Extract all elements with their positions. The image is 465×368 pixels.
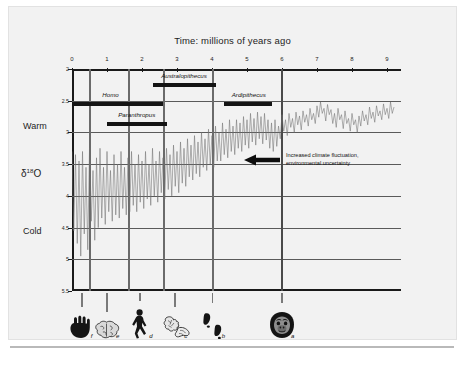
taxon-label-ardipithecus: Ardipithecus xyxy=(232,91,266,98)
x-tick-label-6: 6 xyxy=(280,56,283,62)
plot-area: 22.533.544.555.5 0123456789 HomoParanthr… xyxy=(72,69,401,291)
warm-label: Warm xyxy=(23,121,47,131)
icon-stem-a xyxy=(281,293,283,303)
taxon-bar-ardipithecus xyxy=(224,102,272,106)
figure-panel: Time: millions of years ago 22.533.544.5… xyxy=(8,6,457,340)
y-tick-label-5.5: 5.5 xyxy=(56,288,69,294)
x-tick-label-3: 3 xyxy=(175,56,178,62)
x-tick-label-9: 9 xyxy=(385,56,388,62)
chart-title: Time: millions of years ago xyxy=(9,35,456,46)
taxon-bar-homo xyxy=(72,102,163,106)
taxon-label-australopithecus: Australopithecus xyxy=(161,72,207,79)
y-tick-label-2: 2 xyxy=(56,66,69,72)
y-tick-label-4: 4 xyxy=(56,193,69,199)
climate-annotation: Increased climate fluctuation, environme… xyxy=(286,151,358,167)
y-tick-label-3.5: 3.5 xyxy=(56,161,69,167)
y-tick-label-5: 5 xyxy=(56,256,69,262)
icon-letter-b: b xyxy=(222,333,225,339)
icon-stem-e xyxy=(106,293,108,312)
x-tick-label-1: 1 xyxy=(105,56,108,62)
left-arrow-icon xyxy=(244,154,280,166)
hominin-trait-icons: f e d c b a xyxy=(72,293,401,339)
x-tick-label-7: 7 xyxy=(315,56,318,62)
icon-letter-a: a xyxy=(291,333,294,339)
taxon-bar-paranthropus xyxy=(107,122,167,126)
icon-stem-b xyxy=(212,293,214,303)
icon-stem-d xyxy=(139,293,141,301)
icon-letter-e: e xyxy=(116,333,119,339)
x-tick-label-5: 5 xyxy=(245,56,248,62)
icon-letter-f: f xyxy=(91,333,93,339)
annotation-line-1: Increased climate fluctuation, xyxy=(286,151,358,159)
taxon-label-paranthropus: Paranthropus xyxy=(118,111,155,118)
x-tick-label-4: 4 xyxy=(210,56,213,62)
icon-letter-d: d xyxy=(149,333,152,339)
y-tick-label-2.5: 2.5 xyxy=(56,98,69,104)
taxon-bar-australopithecus xyxy=(153,83,216,87)
icon-letter-c: c xyxy=(184,333,187,339)
cold-label: Cold xyxy=(23,226,42,236)
footer-rule xyxy=(10,346,454,348)
x-tick-label-2: 2 xyxy=(140,56,143,62)
walking-hominin-icon xyxy=(130,309,150,339)
footprints-icon xyxy=(202,311,224,339)
y-tick-label-3: 3 xyxy=(56,129,69,135)
x-tick-label-8: 8 xyxy=(350,56,353,62)
icon-stem-f xyxy=(81,293,83,307)
slide-canvas: Time: millions of years ago 22.533.544.5… xyxy=(0,0,465,368)
icon-stem-c xyxy=(174,293,176,307)
y-tick-label-4.5: 4.5 xyxy=(56,225,69,231)
taxon-label-homo: Homo xyxy=(102,91,119,98)
y-axis-title: δ18O xyxy=(21,167,41,179)
x-tick-label-0: 0 xyxy=(70,56,73,62)
annotation-line-2: environmental uncertainty xyxy=(286,159,358,167)
